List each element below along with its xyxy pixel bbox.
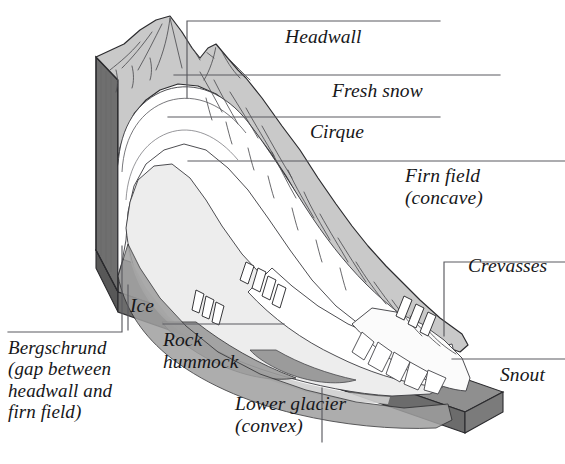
label-bergschrund-line1: Bergschrund (8, 337, 112, 358)
label-snout: Snout (500, 364, 545, 386)
label-bergschrund-line4: firn field) (8, 401, 112, 422)
label-ice: Ice (130, 295, 154, 317)
label-lower-glacier: Lower glacier (convex) (235, 393, 346, 437)
label-crevasses: Crevasses (468, 255, 547, 277)
label-lower-glacier-line2: (convex) (235, 415, 346, 437)
label-firn-field-line1: Firn field (405, 165, 483, 187)
label-headwall: Headwall (285, 26, 362, 48)
label-fresh-snow: Fresh snow (332, 80, 423, 102)
left-cut-face (96, 57, 118, 292)
label-bergschrund-line3: headwall and (8, 380, 112, 401)
label-firn-field-line2: (concave) (405, 187, 483, 209)
label-cirque: Cirque (310, 121, 364, 143)
label-firn-field: Firn field (concave) (405, 165, 483, 209)
label-bergschrund: Bergschrund (gap between headwall and fi… (8, 337, 112, 422)
label-rock-hummock: Rock hummock (163, 329, 238, 373)
label-rock-hummock-line1: Rock (163, 329, 238, 351)
label-lower-glacier-line1: Lower glacier (235, 393, 346, 415)
label-bergschrund-line2: (gap between (8, 358, 112, 379)
glacier-diagram: Headwall Fresh snow Cirque Firn field (c… (0, 0, 565, 464)
label-rock-hummock-line2: hummock (163, 351, 238, 373)
